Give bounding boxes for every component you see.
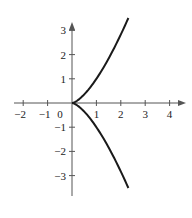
- y-tick-label: −3: [54, 170, 66, 182]
- cusp-curve-chart: −2−11234 −3−2−1123 0: [0, 0, 192, 218]
- x-tick-label: 2: [118, 108, 124, 120]
- y-tick-label: 3: [61, 24, 67, 36]
- y-tick-label: −1: [54, 121, 66, 133]
- x-axis: −2−11234: [14, 100, 186, 120]
- x-tick-label: 3: [142, 108, 148, 120]
- y-axis-arrow-icon: [69, 22, 75, 30]
- x-tick-label: −1: [39, 108, 51, 120]
- origin-label: 0: [57, 108, 63, 120]
- y-tick-label: 1: [61, 73, 67, 85]
- x-axis-arrow-icon: [178, 100, 186, 106]
- x-tick-label: −2: [14, 108, 26, 120]
- y-tick-label: −2: [54, 145, 66, 157]
- y-tick-label: 2: [61, 49, 67, 61]
- x-tick-label: 1: [94, 108, 100, 120]
- x-tick-label: 4: [167, 108, 173, 120]
